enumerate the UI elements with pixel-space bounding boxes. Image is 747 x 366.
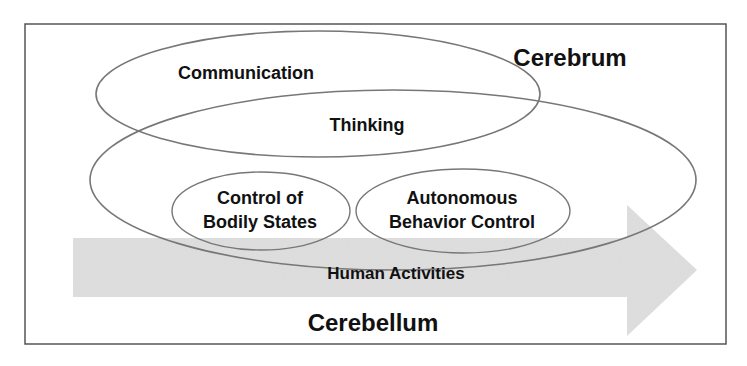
human-activities-label: Human Activities (327, 264, 464, 283)
control-bodily-states-label-line2: Bodily States (203, 212, 317, 232)
cerebrum-label: Cerebrum (513, 44, 626, 71)
cerebellum-label: Cerebellum (308, 309, 439, 336)
diagram-canvas: Communication Thinking Cerebrum Control … (0, 0, 747, 366)
autonomous-behavior-label-line1: Autonomous (407, 188, 518, 208)
control-bodily-states-label-line1: Control of (217, 188, 304, 208)
communication-label: Communication (178, 63, 314, 83)
autonomous-behavior-label-line2: Behavior Control (389, 212, 535, 232)
thinking-label: Thinking (330, 115, 405, 135)
